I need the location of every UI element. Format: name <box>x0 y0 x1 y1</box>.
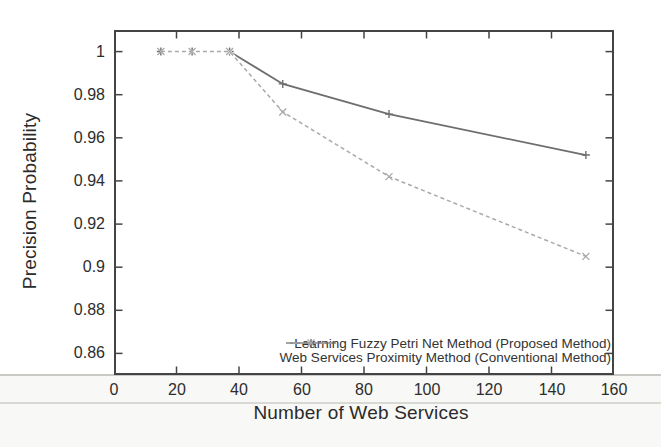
x-tick-label-40: 40 <box>209 381 269 399</box>
x-tick-label-80: 80 <box>334 381 394 399</box>
y-tick-label-0.92: 0.92 <box>0 215 105 233</box>
x-tick-label-120: 120 <box>459 381 519 399</box>
x-axis-title: Number of Web Services <box>211 402 511 424</box>
y-tick-label-0.88: 0.88 <box>0 301 105 319</box>
x-tick-label-20: 20 <box>147 381 207 399</box>
plot-area: Learning Fuzzy Petri Net Method (Propose… <box>114 30 614 375</box>
x-tick-label-100: 100 <box>397 381 457 399</box>
legend: Learning Fuzzy Petri Net Method (Propose… <box>280 337 611 364</box>
legend-label-conventional: Web Services Proximity Method (Conventio… <box>280 350 611 365</box>
y-tick-label-1: 1 <box>0 43 105 61</box>
y-tick-label-0.98: 0.98 <box>0 86 105 104</box>
x-tick-label-0: 0 <box>84 381 144 399</box>
y-tick-label-0.94: 0.94 <box>0 172 105 190</box>
legend-item-conventional: Web Services Proximity Method (Conventio… <box>280 351 611 365</box>
dashed-line-sample-icon <box>285 337 337 349</box>
y-tick-label-0.86: 0.86 <box>0 344 105 362</box>
x-tick-label-140: 140 <box>522 381 582 399</box>
x-tick-label-160: 160 <box>584 381 644 399</box>
y-tick-label-0.9: 0.9 <box>0 258 105 276</box>
chart-canvas <box>114 30 614 375</box>
x-tick-label-60: 60 <box>272 381 332 399</box>
y-tick-label-0.96: 0.96 <box>0 129 105 147</box>
figure-page: Precision Probability Learning Fuzzy Pet… <box>0 0 661 447</box>
